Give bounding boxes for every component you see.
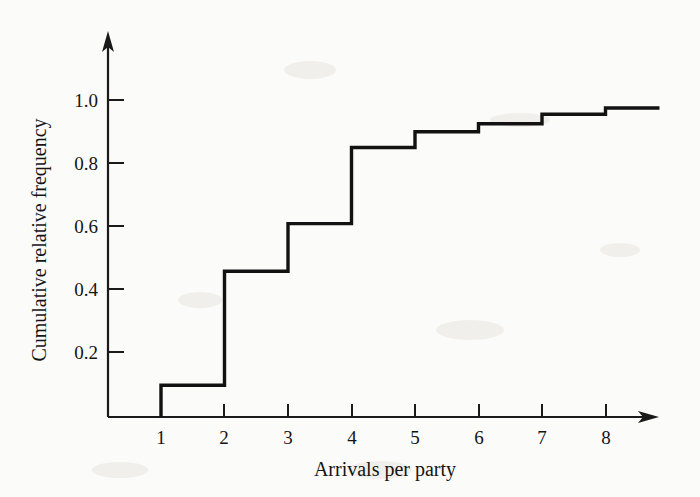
- y-tick-label-1-0: 1.0: [74, 90, 98, 111]
- x-tick-label-8: 8: [601, 427, 611, 448]
- x-tick-label-2: 2: [219, 427, 229, 448]
- y-axis-title: Cumulative relative frequency: [28, 118, 51, 361]
- x-tick-label-5: 5: [410, 427, 420, 448]
- cumulative-frequency-step-chart: 1.0 0.8 0.6 0.4 0.2 1 2 3 4 5 6 7 8: [0, 0, 700, 497]
- cumulative-step-line: [161, 108, 659, 417]
- x-axis-title: Arrivals per party: [314, 458, 456, 481]
- y-tick-label-0-8: 0.8: [74, 153, 98, 174]
- y-tick-label-0-4: 0.4: [74, 279, 98, 300]
- x-axis-tick-labels: 1 2 3 4 5 6 7 8: [156, 427, 611, 448]
- y-tick-label-0-6: 0.6: [74, 216, 98, 237]
- x-tick-label-4: 4: [347, 427, 357, 448]
- y-axis-ticks: [108, 100, 124, 352]
- x-axis-ticks: [161, 404, 606, 417]
- x-axis: [108, 411, 659, 423]
- x-tick-label-1: 1: [156, 427, 166, 448]
- y-tick-label-0-2: 0.2: [74, 342, 98, 363]
- y-axis: [102, 31, 114, 417]
- x-tick-label-3: 3: [283, 427, 293, 448]
- y-axis-tick-labels: 1.0 0.8 0.6 0.4 0.2: [74, 90, 98, 363]
- x-tick-label-6: 6: [474, 427, 484, 448]
- chart-page: 1.0 0.8 0.6 0.4 0.2 1 2 3 4 5 6 7 8: [0, 0, 700, 497]
- x-tick-label-7: 7: [537, 427, 547, 448]
